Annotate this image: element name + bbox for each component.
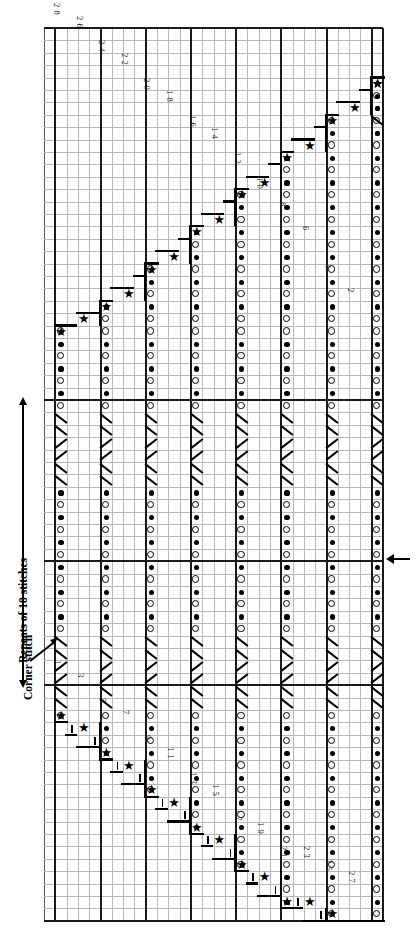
row-number-even: 1 8 xyxy=(165,90,174,102)
chart-symbol-slash xyxy=(101,636,112,648)
chart-symbol-ring xyxy=(101,400,112,412)
chart-symbol-slash xyxy=(281,474,292,486)
chart-symbol-dot xyxy=(281,226,292,238)
chart-symbol-ring xyxy=(281,189,292,201)
chart-symbol-slash xyxy=(281,412,292,424)
chart-symbol-ring xyxy=(101,710,112,722)
chart-symbol-slash xyxy=(101,412,112,424)
chart-symbol-ring xyxy=(327,735,338,747)
chart-symbol-dot xyxy=(101,536,112,548)
step-top xyxy=(76,312,88,314)
chart-symbol-ring xyxy=(372,189,383,201)
chart-symbol-ring xyxy=(281,735,292,747)
chart-symbol-dot xyxy=(236,747,247,759)
step-bottom xyxy=(268,895,280,897)
chart-symbol-bslash xyxy=(281,437,292,449)
chart-symbol-ring xyxy=(372,140,383,152)
chart-symbol-dot xyxy=(146,536,157,548)
chart-symbol-ring xyxy=(327,189,338,201)
chart-symbol-ring xyxy=(146,549,157,561)
chart-symbol-ring xyxy=(55,375,66,387)
row-number-odd: 2 3 xyxy=(302,846,311,858)
chart-symbol-ring xyxy=(327,288,338,300)
step-top xyxy=(347,101,359,103)
row-number-even: 1 4 xyxy=(211,127,220,139)
chart-symbol-dot xyxy=(236,338,247,350)
chart-symbol-dot xyxy=(236,772,247,784)
chart-symbol-slash xyxy=(236,636,247,648)
chart-symbol-slash xyxy=(191,425,202,437)
chart-symbol-dot xyxy=(146,611,157,623)
row-number-odd: 2 5 xyxy=(325,859,334,871)
chart-symbol-ring xyxy=(146,326,157,338)
chart-symbol-dot xyxy=(281,822,292,834)
chart-symbol-dot xyxy=(191,276,202,288)
chart-symbol-slash xyxy=(191,648,202,660)
chart-symbol-ring xyxy=(372,574,383,586)
chart-symbol-ring xyxy=(55,623,66,635)
chart-symbol-bslash xyxy=(101,437,112,449)
chart-symbol-slash xyxy=(191,698,202,710)
chart-symbol-ring xyxy=(191,549,202,561)
chart-symbol-slash xyxy=(372,425,383,437)
chart-symbol-slash xyxy=(372,115,383,127)
chart-symbol-ring xyxy=(327,809,338,821)
chart-symbol-ring xyxy=(327,140,338,152)
chart-symbol-slash xyxy=(55,425,66,437)
chart-symbol-dot xyxy=(146,363,157,375)
chart-symbol-ring xyxy=(146,598,157,610)
step-bottom xyxy=(178,820,190,822)
chart-symbol-ring xyxy=(55,549,66,561)
chart-symbol-slash xyxy=(281,462,292,474)
chart-symbol-ring xyxy=(55,524,66,536)
chart-symbol-dot xyxy=(236,611,247,623)
step-bottom xyxy=(201,845,213,847)
step-bottom xyxy=(65,734,77,736)
chart-symbol-dot xyxy=(327,611,338,623)
chart-symbol-dot xyxy=(191,363,202,375)
chart-symbol-dot xyxy=(327,127,338,139)
chart-symbol-ring xyxy=(236,264,247,276)
chart-symbol-ring xyxy=(372,288,383,300)
chart-symbol-ring xyxy=(372,834,383,846)
chart-symbol-slash xyxy=(146,636,157,648)
chart-symbol-ring xyxy=(191,313,202,325)
step-top xyxy=(54,324,69,326)
chart-symbol-dot xyxy=(372,722,383,734)
row-number-odd: 1 9 xyxy=(257,822,266,834)
chart-symbol-ring xyxy=(191,784,202,796)
chart-symbol-ring xyxy=(281,288,292,300)
chart-symbol-ring xyxy=(146,623,157,635)
chart-symbol-star: ★ xyxy=(123,760,134,772)
chart-symbol-ring xyxy=(327,214,338,226)
chart-symbol-dot xyxy=(236,586,247,598)
chart-symbol-bslash xyxy=(236,673,247,685)
chart-symbol-ring xyxy=(281,574,292,586)
row-number-even: 4 xyxy=(324,264,333,269)
chart-symbol-ring xyxy=(191,524,202,536)
chart-symbol-ring xyxy=(191,598,202,610)
chart-symbol-dot xyxy=(55,536,66,548)
chart-symbol-ring xyxy=(281,834,292,846)
chart-symbol-slash xyxy=(281,698,292,710)
chart-symbol-dot xyxy=(281,251,292,263)
chart-symbol-slash xyxy=(281,685,292,697)
step-vert xyxy=(370,78,372,115)
chart-symbol-ring xyxy=(372,499,383,511)
chart-symbol-star: ★ xyxy=(327,115,338,127)
chart-symbol-dot xyxy=(191,388,202,400)
chart-symbol-ring xyxy=(191,375,202,387)
chart-symbol-dot xyxy=(146,722,157,734)
row-number-even: 6 xyxy=(301,226,310,231)
chart-symbol-ring xyxy=(327,710,338,722)
chart-symbol-dot xyxy=(146,747,157,759)
step-top xyxy=(302,138,314,140)
chart-symbol-ring xyxy=(327,499,338,511)
chart-symbol-ring xyxy=(372,598,383,610)
chart-symbol-ring xyxy=(327,784,338,796)
chart-symbol-slash xyxy=(236,462,247,474)
step-top xyxy=(314,126,326,128)
chart-symbol-dot xyxy=(372,896,383,908)
chart-symbol-slash xyxy=(236,425,247,437)
chart-symbol-slash xyxy=(191,474,202,486)
